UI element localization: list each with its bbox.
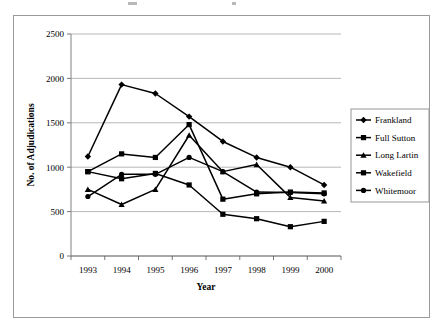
- data-point-marker: [322, 191, 327, 196]
- data-point-marker: [254, 189, 259, 194]
- data-point-marker: [361, 135, 366, 140]
- data-point-marker: [254, 216, 259, 221]
- data-point-marker: [119, 172, 124, 177]
- data-point-marker: [220, 197, 225, 202]
- x-axis-ticks: [71, 256, 341, 260]
- data-point-marker: [288, 190, 293, 195]
- data-point-marker: [85, 186, 91, 192]
- legend-label: Long Lartin: [375, 150, 419, 160]
- data-point-marker: [85, 153, 91, 159]
- data-point-marker: [361, 170, 366, 175]
- series-line: [88, 125, 324, 200]
- y-tick-label: 1500: [46, 118, 65, 128]
- scan-artifact-mark: [128, 2, 137, 5]
- y-tick-label: 2000: [46, 74, 65, 84]
- legend: FranklandFull SuttonLong LartinWakefield…: [351, 109, 429, 202]
- legend-label: Whitemoor: [375, 186, 416, 196]
- data-point-marker: [118, 81, 124, 87]
- legend-label: Full Sutton: [375, 133, 416, 143]
- y-gridlines: [67, 34, 341, 256]
- series-wakefield: [85, 122, 326, 202]
- data-point-marker: [186, 132, 192, 138]
- x-tick-label: 1997: [214, 265, 233, 275]
- scan-artifact-strip: [0, 0, 443, 12]
- x-tick-label: 1993: [79, 265, 98, 275]
- data-point-marker: [287, 164, 293, 170]
- data-point-marker: [153, 172, 158, 177]
- x-tick-label: 2000: [315, 265, 334, 275]
- x-tick-label: 1998: [248, 265, 267, 275]
- x-tick-label: 1996: [180, 265, 199, 275]
- data-point-marker: [361, 188, 366, 193]
- data-point-marker: [85, 169, 90, 174]
- scan-artifact-mark: [232, 2, 236, 5]
- legend-label: Wakefield: [375, 168, 412, 178]
- data-point-marker: [187, 122, 192, 127]
- x-tick-label: 1995: [146, 265, 165, 275]
- data-point-marker: [119, 151, 124, 156]
- x-axis-title: Year: [197, 282, 217, 292]
- line-chart: 0500100015002000250019931994199519961997…: [14, 16, 429, 317]
- data-point-marker: [220, 212, 225, 217]
- x-tick-label: 1999: [281, 265, 300, 275]
- data-point-marker: [187, 182, 192, 187]
- y-tick-label: 0: [60, 251, 65, 261]
- data-point-marker: [119, 176, 124, 181]
- data-point-marker: [220, 169, 225, 174]
- x-tick-label: 1994: [113, 265, 132, 275]
- chart-page: 0500100015002000250019931994199519961997…: [0, 0, 443, 333]
- series-line: [88, 85, 324, 185]
- legend-label: Frankland: [375, 115, 412, 125]
- y-tick-label: 1000: [46, 163, 65, 173]
- data-point-marker: [187, 155, 192, 160]
- data-point-marker: [85, 194, 90, 199]
- data-point-marker: [253, 154, 259, 160]
- y-tick-label: 2500: [46, 29, 65, 39]
- y-tick-label: 500: [51, 207, 65, 217]
- y-axis-title: No. of Adjudications: [26, 103, 36, 186]
- data-point-marker: [322, 219, 327, 224]
- data-point-marker: [321, 182, 327, 188]
- data-point-marker: [153, 155, 158, 160]
- data-point-marker: [288, 224, 293, 229]
- chart-frame: 0500100015002000250019931994199519961997…: [13, 15, 430, 318]
